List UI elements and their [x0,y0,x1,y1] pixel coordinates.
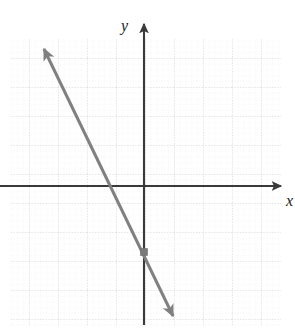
graph-figure: y x [0,0,295,334]
marked-point-layer [141,249,148,256]
x-axis-label: x [286,193,293,209]
y-intercept-point-marker [141,249,148,256]
coordinate-plane-svg [0,0,295,334]
grid-layer [10,38,281,326]
major-gridlines [11,38,281,326]
y-axis-label: y [121,18,128,34]
